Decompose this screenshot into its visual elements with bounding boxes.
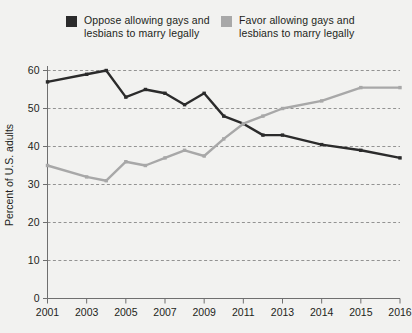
data-point-marker (320, 99, 323, 102)
same-sex-marriage-opinion-chart: Oppose allowing gays and lesbians to mar… (0, 0, 412, 333)
data-point-marker (242, 122, 245, 125)
x-tick-label: 2011 (232, 306, 255, 318)
data-point-marker (359, 86, 362, 89)
x-tick-label: 2016 (388, 306, 412, 318)
data-point-marker (144, 88, 147, 91)
data-point-marker (202, 92, 205, 95)
data-point-marker (124, 95, 127, 98)
x-tick-label: 2015 (349, 306, 373, 318)
y-tick-label: 10 (28, 254, 40, 266)
gridlines (48, 71, 401, 261)
data-point-marker (105, 179, 108, 182)
data-point-marker (398, 156, 401, 159)
x-tick-label: 2014 (310, 306, 334, 318)
x-axis-ticks: 2001200320052007200920112013201420152016 (36, 299, 412, 319)
series-line-oppose (48, 71, 401, 158)
data-point-marker (144, 164, 147, 167)
data-series-layer (46, 69, 402, 183)
data-point-marker (46, 164, 49, 167)
data-point-marker (163, 156, 166, 159)
plot-svg: 0102030405060 20012003200520072009201120… (0, 0, 412, 333)
y-tick-label: 20 (28, 216, 40, 228)
data-point-marker (183, 103, 186, 106)
x-tick-label: 2001 (36, 306, 60, 318)
data-point-marker (105, 69, 108, 72)
y-axis-ticks: 0102030405060 (28, 64, 48, 304)
data-point-marker (222, 137, 225, 140)
data-point-marker (46, 80, 49, 83)
y-tick-label: 50 (28, 102, 40, 114)
x-tick-label: 2013 (271, 306, 295, 318)
data-point-marker (202, 154, 205, 157)
data-point-marker (85, 175, 88, 178)
y-tick-label: 60 (28, 64, 40, 76)
data-point-marker (261, 133, 264, 136)
data-point-marker (281, 133, 284, 136)
x-tick-label: 2003 (75, 306, 99, 318)
x-tick-label: 2005 (114, 306, 138, 318)
data-point-marker (398, 86, 401, 89)
y-tick-label: 30 (28, 178, 40, 190)
x-tick-label: 2009 (192, 306, 216, 318)
data-point-marker (163, 92, 166, 95)
y-tick-label: 40 (28, 140, 40, 152)
x-tick-label: 2007 (153, 306, 177, 318)
y-tick-label: 0 (34, 292, 40, 304)
data-point-marker (183, 149, 186, 152)
data-point-marker (124, 160, 127, 163)
series-line-favor (48, 88, 401, 181)
data-point-marker (222, 114, 225, 117)
plot-area: 0102030405060 20012003200520072009201120… (0, 0, 412, 333)
data-point-marker (261, 114, 264, 117)
data-point-marker (85, 73, 88, 76)
data-point-marker (320, 143, 323, 146)
data-point-marker (281, 107, 284, 110)
data-point-marker (359, 149, 362, 152)
